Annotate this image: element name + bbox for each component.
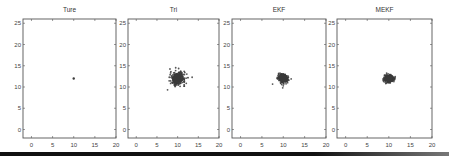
subplot-mekf: MEKF051015200510152025	[328, 6, 436, 148]
y-tick-label: 20	[14, 42, 21, 48]
x-tick-label: 20	[113, 142, 120, 148]
x-tick-label: 15	[195, 142, 202, 148]
x-tick-label: 0	[135, 142, 139, 148]
x-tick-label: 0	[30, 142, 34, 148]
y-tick-label: 0	[227, 127, 231, 133]
subplot-ekf: EKF051015200510152025	[223, 6, 330, 148]
subplot-ture: Ture051015200510152025	[14, 6, 120, 148]
subplot-title: MEKF	[375, 6, 393, 13]
scatter-points	[73, 77, 75, 79]
y-tick-label: 10	[328, 84, 335, 90]
y-tick-label: 25	[328, 20, 335, 26]
x-tick-label: 10	[174, 142, 181, 148]
x-tick-label: 15	[301, 142, 308, 148]
y-tick-label: 10	[119, 84, 126, 90]
y-tick-label: 0	[18, 127, 22, 133]
y-tick-label: 25	[14, 20, 21, 26]
x-tick-label: 20	[216, 142, 223, 148]
x-tick-label: 10	[70, 142, 77, 148]
bottom-rule	[0, 152, 449, 156]
x-tick-label: 5	[51, 142, 55, 148]
y-tick-label: 10	[14, 84, 21, 90]
subplot-title: Ture	[63, 6, 77, 13]
subplot-title: EKF	[273, 6, 286, 13]
subplot-tri: Tri051015200510152025	[119, 6, 223, 148]
y-tick-label: 15	[328, 63, 335, 69]
y-tick-label: 5	[332, 105, 336, 111]
y-tick-label: 5	[123, 105, 127, 111]
y-tick-label: 0	[332, 127, 336, 133]
y-tick-label: 20	[223, 42, 230, 48]
y-tick-label: 5	[18, 105, 22, 111]
y-tick-label: 25	[119, 20, 126, 26]
x-tick-label: 15	[92, 142, 99, 148]
y-tick-label: 15	[223, 63, 230, 69]
y-tick-label: 15	[14, 63, 21, 69]
y-tick-label: 20	[119, 42, 126, 48]
x-tick-label: 10	[385, 142, 392, 148]
x-tick-label: 5	[260, 142, 264, 148]
y-tick-label: 20	[328, 42, 335, 48]
y-tick-label: 10	[223, 84, 230, 90]
x-tick-label: 10	[280, 142, 287, 148]
subplot-title: Tri	[170, 6, 177, 13]
axes-box	[23, 19, 116, 138]
x-tick-label: 5	[155, 142, 159, 148]
figure: Ture051015200510152025Tri051015200510152…	[0, 0, 449, 157]
y-tick-label: 25	[223, 20, 230, 26]
x-tick-label: 15	[407, 142, 414, 148]
x-tick-label: 0	[239, 142, 243, 148]
y-tick-label: 0	[123, 127, 127, 133]
x-tick-label: 0	[344, 142, 348, 148]
x-tick-label: 20	[429, 142, 436, 148]
y-tick-label: 5	[227, 105, 231, 111]
x-tick-label: 5	[366, 142, 370, 148]
y-tick-label: 15	[119, 63, 126, 69]
x-tick-label: 20	[323, 142, 330, 148]
